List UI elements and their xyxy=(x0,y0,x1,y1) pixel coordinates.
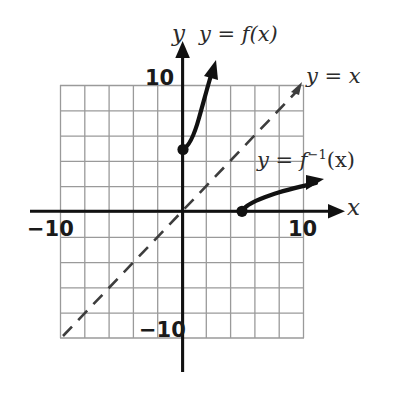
curve-label-f-inverse-suffix: (x) xyxy=(327,148,355,172)
x-axis-tick-label-10: 10 xyxy=(288,219,317,240)
curve-label-f-inverse-exponent: −1 xyxy=(308,147,327,162)
x-axis-label: x xyxy=(347,196,360,219)
curve-label-f-of-x: y = f(x) xyxy=(199,24,278,45)
curve-f-endpoint-dot xyxy=(177,144,188,155)
x-axis-arrowhead xyxy=(328,204,345,219)
y-axis-tick-label-10: 10 xyxy=(145,68,174,89)
x-axis-tick-label-negative-10: −10 xyxy=(27,219,74,240)
y-axis-tick-label-negative-10: −10 xyxy=(139,320,186,341)
identity-line-arrowhead xyxy=(291,82,302,95)
curve-label-y-equals-x: y = x xyxy=(306,66,361,87)
curve-f-arrowhead xyxy=(204,60,218,80)
curve-f-inverse-arrowhead xyxy=(306,175,324,190)
y-axis-label: y xyxy=(172,22,185,45)
inverse-function-graph-figure: y x 10 −10 −10 10 y = f(x) y = x y = f−1… xyxy=(0,0,406,400)
graph-canvas xyxy=(0,0,406,400)
curve-label-f-inverse-of-x: y = f−1(x) xyxy=(257,148,355,171)
curve-f-inverse-endpoint-dot xyxy=(236,206,247,217)
curve-label-f-inverse-prefix: y = f xyxy=(257,148,308,172)
